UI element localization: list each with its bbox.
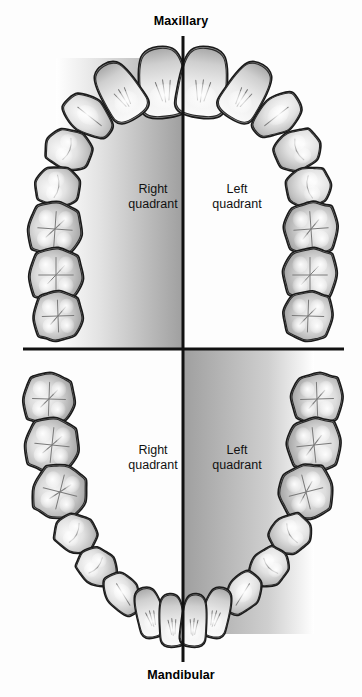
dental-arch-diagram: Maxillary Mandibular Right quadrant Left… — [0, 0, 362, 697]
quadrant-label-upper-right: Right quadrant — [121, 182, 185, 213]
tooth-maxillary-left-third-molar — [282, 290, 334, 343]
quadrant-label-lower-right: Right quadrant — [121, 443, 185, 474]
quadrant-label-upper-left: Left quadrant — [205, 182, 269, 213]
tooth-maxillary-right-third-molar — [32, 290, 84, 343]
quadrant-label-line2: quadrant — [205, 197, 269, 212]
quadrant-label-line2: quadrant — [205, 458, 269, 473]
quadrant-label-line1: Left — [205, 443, 269, 458]
quadrant-label-lower-left: Left quadrant — [205, 443, 269, 474]
tooth-surface-detail — [292, 256, 327, 294]
tooth-group-mandibular-right — [22, 371, 188, 648]
quadrant-label-line1: Left — [205, 182, 269, 197]
mandibular-label: Mandibular — [0, 668, 362, 682]
quadrant-label-line1: Right — [121, 182, 185, 197]
quadrant-label-line2: quadrant — [121, 458, 185, 473]
dental-arch-illustration — [0, 0, 362, 697]
quadrant-label-line1: Right — [121, 443, 185, 458]
tooth-surface-detail — [39, 256, 74, 294]
quadrant-label-line2: quadrant — [121, 197, 185, 212]
maxillary-label: Maxillary — [0, 14, 362, 28]
